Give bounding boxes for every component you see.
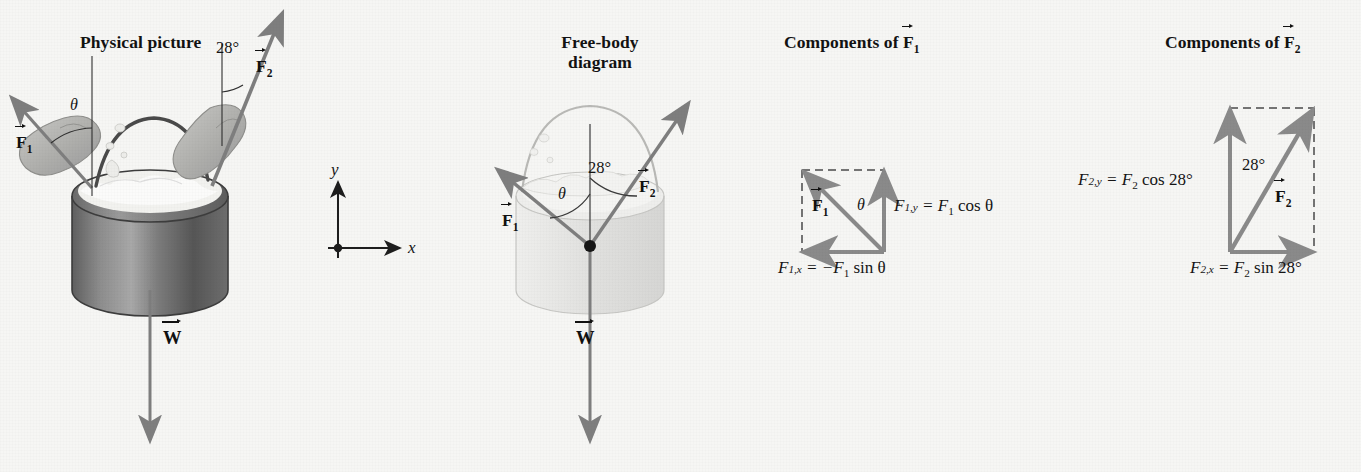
f1-label-physical: F1 — [16, 132, 32, 155]
f1y-equation-sub: 1,y — [904, 201, 917, 213]
fbd-f2-label-text: F — [639, 176, 650, 196]
f2-label-physical: F2 — [256, 56, 272, 79]
coordinate-axes-panel: y x — [300, 0, 440, 472]
x-axis-label: x — [408, 238, 416, 258]
f2y-equation-sub: 2,y — [1088, 175, 1101, 187]
components-f1-vector-label-sub: 1 — [823, 206, 829, 218]
fbd-weight-label: W — [576, 328, 595, 349]
fbd-f1-label-sub: 1 — [513, 221, 519, 233]
fbd-f1-label-text: F — [502, 210, 513, 230]
fbd-pivot-dot — [584, 240, 596, 252]
f2y-equation-lhs: F — [1078, 170, 1088, 189]
f2y-equation: F2,y = F2 cos 28° — [1078, 170, 1193, 191]
f2x-equation-tail: sin 28° — [1250, 258, 1302, 277]
fbd-f2-label: F2 — [639, 176, 655, 199]
components-f2-vector-label-text: F — [1275, 186, 1286, 206]
f1x-equation-rhs: = −F — [802, 258, 844, 277]
fbd-angle-28-label: 28° — [588, 158, 611, 178]
f2x-equation-lhs: F — [1190, 258, 1200, 277]
f2x-equation-rhs: = F — [1214, 258, 1244, 277]
weight-label-physical: W — [163, 328, 182, 349]
f1y-equation-rhs: = F — [918, 196, 948, 215]
f1y-equation-tail: cos θ — [954, 196, 993, 215]
f1x-equation: F1,x = −F1 sin θ — [778, 258, 886, 279]
fbd-theta-label: θ — [558, 185, 566, 203]
theta-label-physical: θ — [70, 96, 78, 114]
components-f2-angle-label: 28° — [1242, 155, 1265, 175]
fbd-weight-label-text: W — [576, 328, 595, 348]
y-axis-label: y — [331, 160, 339, 180]
components-f1-vector-label-text: F — [812, 195, 823, 215]
weight-label-physical-text: W — [163, 328, 182, 348]
f1-label-physical-sub: 1 — [27, 143, 33, 155]
components-f2-graphic — [1060, 0, 1361, 472]
fbd-f1-label: F1 — [502, 210, 518, 233]
components-f2-vector-label: F2 — [1275, 186, 1291, 209]
f1y-equation-lhs: F — [894, 196, 904, 215]
f2-resultant-arrow — [1230, 111, 1312, 252]
angle-28-label-physical: 28° — [216, 38, 239, 58]
f2y-equation-rhs: = F — [1102, 170, 1132, 189]
f2x-equation: F2,x = F2 sin 28° — [1190, 258, 1302, 279]
components-f2-vector-label-sub: 2 — [1286, 197, 1292, 209]
f2-label-physical-text: F — [256, 56, 267, 76]
axes-graphic — [300, 0, 440, 472]
f2y-equation-tail: cos 28° — [1138, 170, 1193, 189]
components-f1-graphic — [760, 0, 1060, 472]
components-f1-panel: Components of F1 F1 θ F1,y = F1 cos θ F1… — [760, 0, 1060, 472]
f2-label-physical-sub: 2 — [267, 67, 273, 79]
f1x-equation-sub: 1,x — [788, 263, 801, 275]
f2x-equation-sub: 2,x — [1200, 263, 1213, 275]
f1y-equation: F1,y = F1 cos θ — [894, 196, 993, 217]
components-f2-panel: Components of F2 28° F2 F2,y = F2 cos 28… — [1060, 0, 1361, 472]
origin-dot — [334, 244, 342, 252]
f1x-equation-tail: sin θ — [849, 258, 885, 277]
physical-picture-illustration — [0, 0, 300, 472]
fbd-graphic — [440, 0, 760, 472]
fbd-f2-label-sub: 2 — [650, 187, 656, 199]
f1x-equation-lhs: F — [778, 258, 788, 277]
angle-28-arc — [222, 85, 243, 92]
components-f1-vector-label: F1 — [812, 195, 828, 218]
free-body-diagram-panel: Free-body diagram — [440, 0, 760, 472]
right-hand-graphic — [173, 105, 246, 179]
physical-picture-panel: Physical picture — [0, 0, 300, 472]
f1-label-physical-text: F — [16, 132, 27, 152]
components-f1-theta-label: θ — [857, 196, 865, 214]
